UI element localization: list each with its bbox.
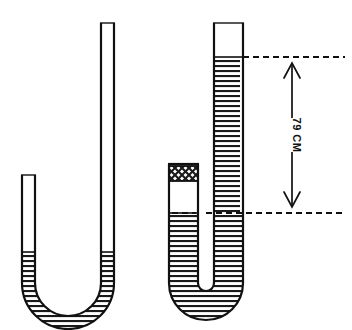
right-tube-liquid [169, 57, 243, 320]
right-u-tube [168, 23, 244, 320]
figure-canvas: 79 CM [0, 0, 352, 330]
left-tube-inner-wall [35, 23, 101, 316]
right-tube-inner-wall [198, 23, 214, 291]
dimension-label: 79 CM [291, 118, 303, 153]
manometer-diagram: 79 CM [0, 0, 352, 330]
left-u-tube [21, 23, 115, 329]
right-short-arm-plug [169, 166, 198, 181]
